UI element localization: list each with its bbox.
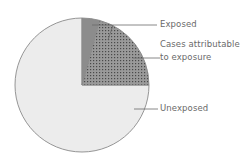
label-exposed: Exposed — [160, 19, 197, 30]
label-cases-line2: to exposure — [160, 52, 211, 63]
label-unexposed: Unexposed — [160, 103, 208, 114]
pie-chart — [0, 0, 248, 160]
label-cases-line1: Cases attributable — [160, 39, 240, 50]
